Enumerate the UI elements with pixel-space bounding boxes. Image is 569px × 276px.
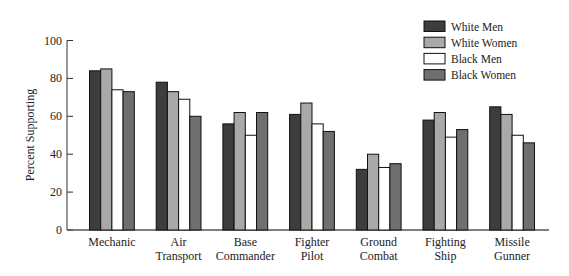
bar <box>312 124 323 230</box>
legend-label: White Women <box>451 37 517 49</box>
y-tick-label: 60 <box>50 109 62 123</box>
legend-item: Black Women <box>424 69 516 81</box>
bar <box>512 135 523 230</box>
y-tick-label: 80 <box>50 71 62 85</box>
legend-label: Black Women <box>451 69 516 81</box>
bar <box>379 167 390 230</box>
legend-label: Black Men <box>451 53 502 65</box>
bar-chart: 020406080100 MechanicAirTransportBaseCom… <box>0 0 569 276</box>
x-tick-label: Fighting <box>425 235 466 249</box>
bar <box>490 107 501 230</box>
bar <box>112 90 123 230</box>
legend-swatch <box>424 70 445 81</box>
legend-swatch <box>424 37 445 48</box>
bar <box>123 92 134 230</box>
legend-label: White Men <box>451 21 503 33</box>
bar <box>434 113 445 230</box>
bar <box>501 114 512 230</box>
x-tick-label: Missile <box>494 235 529 249</box>
x-tick-label: Combat <box>360 249 399 263</box>
bar <box>156 82 167 230</box>
legend: White MenWhite WomenBlack MenBlack Women <box>424 21 517 82</box>
x-tick-label: Commander <box>216 249 275 263</box>
legend-item: Black Men <box>424 53 502 65</box>
bar <box>190 116 201 230</box>
legend-item: White Women <box>424 37 517 49</box>
y-tick-label: 20 <box>50 185 62 199</box>
x-tick-label: Gunner <box>494 249 530 263</box>
x-tick-label: Air <box>171 235 187 249</box>
bars <box>90 69 535 230</box>
y-tick-label: 100 <box>44 34 62 48</box>
bar <box>356 169 367 230</box>
x-tick-label: Ground <box>360 235 397 249</box>
bar <box>234 113 245 230</box>
bar <box>390 164 401 230</box>
bar <box>457 130 468 230</box>
y-tick-label: 0 <box>56 223 62 237</box>
bar <box>323 131 334 230</box>
bar-group <box>156 82 201 230</box>
bar <box>90 71 101 230</box>
bar <box>301 103 312 230</box>
x-tick-label: Base <box>234 235 257 249</box>
bar <box>523 143 534 230</box>
y-tick-label: 40 <box>50 147 62 161</box>
bar <box>423 120 434 230</box>
x-tick-label: Ship <box>434 249 456 263</box>
bar <box>245 135 256 230</box>
x-tick-label: Fighter <box>295 235 330 249</box>
bar <box>101 69 112 230</box>
bar-group <box>356 154 401 230</box>
x-tick-label: Mechanic <box>88 235 135 249</box>
bar <box>445 137 456 230</box>
x-axis-labels: MechanicAirTransportBaseCommanderFighter… <box>88 235 530 263</box>
legend-item: White Men <box>424 21 503 33</box>
bar-group <box>223 113 268 230</box>
bar <box>167 92 178 230</box>
bar-group <box>490 107 535 230</box>
bar-group <box>423 113 468 230</box>
legend-swatch <box>424 53 445 64</box>
x-tick-label: Pilot <box>301 249 324 263</box>
bar <box>179 99 190 230</box>
y-axis-label: Percent Supporting <box>23 89 37 181</box>
bar <box>290 114 301 230</box>
bar <box>223 124 234 230</box>
bar <box>368 154 379 230</box>
bar-group <box>90 69 135 230</box>
bar <box>257 113 268 230</box>
legend-swatch <box>424 21 445 32</box>
bar-group <box>290 103 335 230</box>
x-tick-label: Transport <box>155 249 202 263</box>
